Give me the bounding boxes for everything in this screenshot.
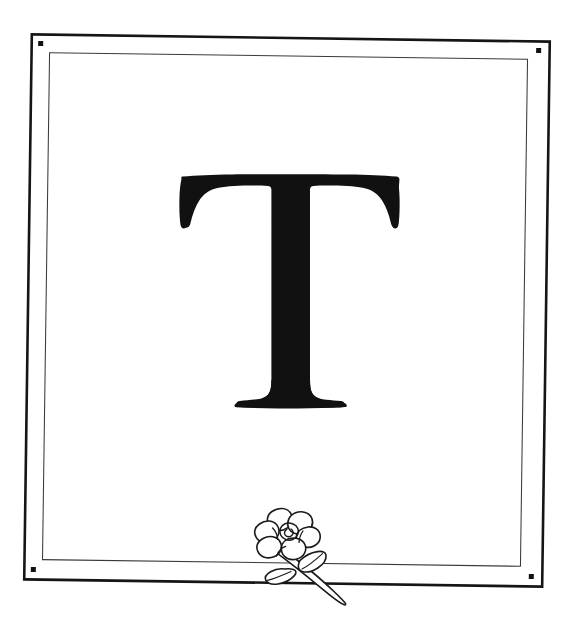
rose-petal-bottom-right [281, 538, 306, 560]
corner-dot-bottom-left [31, 567, 36, 572]
corner-dot-bottom-right [529, 574, 534, 579]
plate-artwork [0, 0, 574, 620]
corner-dot-top-left [38, 41, 43, 46]
letter-plate: Illuminated Letter Plate T serif capital… [0, 0, 574, 620]
corner-dot-top-right [536, 48, 541, 53]
